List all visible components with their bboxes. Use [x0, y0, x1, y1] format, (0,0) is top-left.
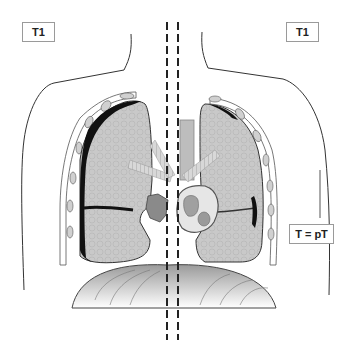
pathologic-stage-text: T = pT: [295, 228, 328, 240]
thorax-diagram: [0, 0, 346, 340]
stage-label-right: T1: [286, 22, 319, 42]
stage-label-left: T1: [22, 22, 55, 42]
lung-right: [196, 104, 263, 262]
stage-label-right-text: T1: [296, 26, 309, 38]
stage-label-left-text: T1: [32, 26, 45, 38]
pathologic-stage-label: T = pT: [289, 224, 334, 244]
diaphragm: [72, 265, 276, 308]
